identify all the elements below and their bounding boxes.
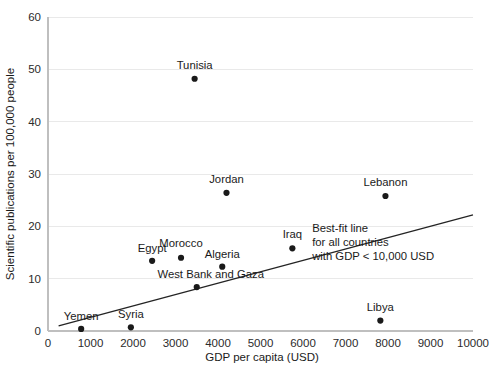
data-point-label: West Bank and Gaza	[157, 268, 264, 280]
data-point-label: Jordan	[209, 173, 244, 185]
data-point	[289, 245, 295, 251]
data-point	[78, 326, 84, 332]
best-fit-annotation-line: with GDP < 10,000 USD	[311, 250, 434, 262]
data-point-label: Libya	[367, 301, 395, 313]
best-fit-annotation-line: for all countries	[312, 236, 389, 248]
x-tick-labels-group: 0100020003000400050006000700080009000100…	[45, 337, 489, 349]
x-tick-label: 9000	[418, 337, 444, 349]
data-point-label: Morocco	[159, 237, 202, 249]
x-tick-label: 10000	[457, 337, 489, 349]
y-tick-label: 40	[28, 116, 41, 128]
scatter-chart: YemenSyriaEgyptMoroccoTunisiaWest Bank a…	[0, 0, 490, 371]
data-point-label: Yemen	[64, 310, 99, 322]
data-point-label: Tunisia	[177, 59, 214, 71]
data-point	[128, 324, 134, 330]
best-fit-annotation-line: Best-fit line	[312, 222, 368, 234]
data-point	[178, 255, 184, 261]
y-tick-label: 0	[35, 325, 41, 337]
x-tick-label: 4000	[205, 337, 231, 349]
x-tick-label: 3000	[163, 337, 189, 349]
data-point	[194, 284, 200, 290]
data-point-label: Algeria	[205, 248, 241, 260]
data-point	[382, 193, 388, 199]
annotation-group: Best-fit linefor all countrieswith GDP <…	[311, 222, 434, 262]
data-point-label: Syria	[118, 308, 144, 320]
y-tick-label: 50	[28, 63, 41, 75]
x-tick-label: 5000	[248, 337, 274, 349]
data-point	[223, 190, 229, 196]
y-tick-labels-group: 0102030405060	[28, 11, 41, 337]
data-point	[192, 76, 198, 82]
y-axis-title: Scientific publications per 100,000 peop…	[4, 68, 16, 280]
y-tick-label: 20	[28, 220, 41, 232]
chart-canvas: YemenSyriaEgyptMoroccoTunisiaWest Bank a…	[0, 0, 490, 371]
x-tick-label: 0	[45, 337, 51, 349]
data-point-label: Lebanon	[363, 176, 407, 188]
data-point-label: Iraq	[283, 228, 302, 240]
x-tick-label: 2000	[120, 337, 146, 349]
y-tick-label: 10	[28, 273, 41, 285]
x-tick-label: 1000	[78, 337, 104, 349]
x-tick-label: 8000	[375, 337, 401, 349]
point-labels-group: YemenSyriaEgyptMoroccoTunisiaWest Bank a…	[64, 59, 408, 322]
gridlines-group	[48, 17, 473, 279]
x-tick-label: 6000	[290, 337, 316, 349]
y-tick-label: 60	[28, 11, 41, 23]
y-tick-label: 30	[28, 168, 41, 180]
data-point	[377, 317, 383, 323]
data-points-group	[78, 76, 389, 332]
data-point	[149, 258, 155, 264]
x-axis-title: GDP per capita (USD)	[205, 351, 319, 363]
x-tick-label: 7000	[333, 337, 359, 349]
